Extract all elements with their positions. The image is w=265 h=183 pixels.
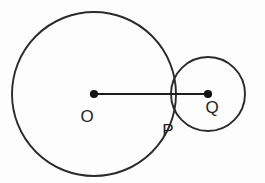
label-p: P [162,121,173,140]
label-q: Q [205,98,218,117]
center-dot-o [90,90,98,98]
geometry-canvas: O P Q [0,0,265,183]
center-dot-q [204,90,212,98]
label-o: O [80,107,93,126]
geometry-figure: O P Q [0,0,265,183]
